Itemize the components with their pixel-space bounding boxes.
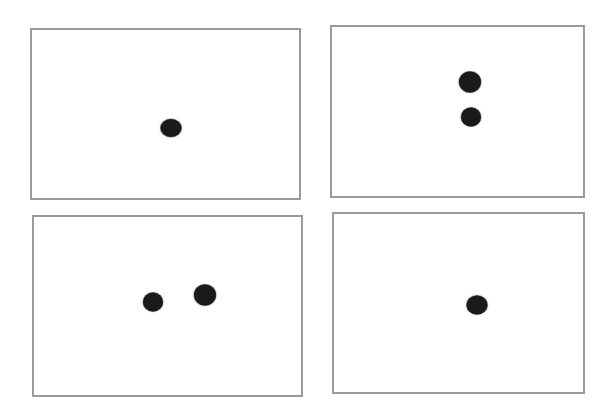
dot-icon [459,72,481,93]
panel-top-left [30,28,301,200]
panel-bottom-left [32,215,303,397]
dot-icon [143,293,163,312]
panel-bottom-right [332,212,585,394]
dot-icon [467,296,488,315]
dot-icon [461,108,481,127]
dot-icon [194,285,216,306]
panel-top-right [330,25,585,198]
dot-icon [161,119,182,137]
